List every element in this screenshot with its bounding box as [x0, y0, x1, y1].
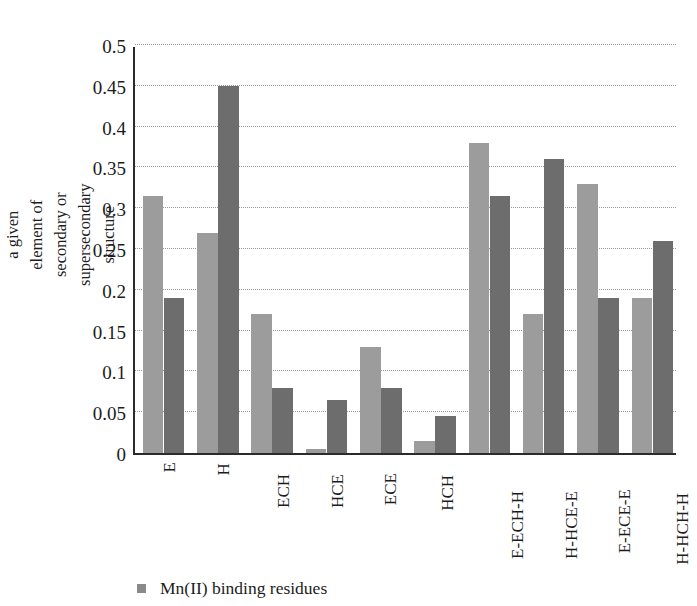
bar	[469, 143, 490, 453]
x-tick-label-text: E-ECH-H	[508, 491, 528, 559]
bar	[360, 347, 381, 453]
bar	[632, 298, 653, 453]
bar	[143, 196, 164, 453]
gridline	[135, 44, 676, 45]
x-tick-label-text: E-ECE-E	[615, 489, 635, 553]
y-axis-title: The usage of amino acids in a given elem…	[0, 0, 72, 470]
x-tick-label: ECH	[257, 457, 281, 477]
x-tick-label: E-ECE-E	[583, 457, 607, 477]
x-tick-label-text: ECE	[381, 473, 401, 505]
bar	[327, 400, 348, 453]
x-tick-label-text: H-HCH-H	[673, 493, 693, 565]
x-tick-label: H	[202, 457, 226, 477]
bar	[164, 298, 185, 453]
y-tick-label: 0.3	[102, 199, 126, 221]
y-tick-label: 0	[117, 444, 127, 466]
y-tick-label: 0.05	[93, 403, 126, 425]
bar	[435, 416, 456, 453]
bar-chart-figure: The usage of amino acids in a given elem…	[0, 0, 697, 606]
y-tick-label: 0.2	[102, 280, 126, 302]
x-tick-label: HCE	[311, 457, 335, 477]
bar	[306, 449, 327, 453]
y-tick-label: 0.15	[93, 321, 126, 343]
bar	[653, 241, 674, 453]
x-tick-label-text: H	[214, 463, 234, 475]
legend-item-label: Mn(II) binding residues	[160, 578, 327, 599]
x-tick-label: ECE	[365, 457, 389, 477]
x-tick-label-text: ECH	[274, 474, 294, 508]
y-tick-label: 0.25	[93, 240, 126, 262]
bar	[272, 388, 293, 453]
plot-area: 00.050.10.150.20.250.30.350.40.450.5	[133, 47, 676, 455]
bar-group	[135, 47, 189, 453]
legend-square-marker-icon	[137, 584, 146, 593]
x-tick-label-text: E	[160, 462, 180, 472]
bar	[544, 159, 565, 453]
bar-group	[352, 47, 406, 453]
bar-group	[189, 47, 243, 453]
y-tick-label: 0.1	[102, 362, 126, 384]
x-tick-label: H-HCE-E	[528, 457, 552, 477]
x-tick-labels: EHECHHCEECEHCHE-ECH-HH-HCE-EE-ECE-EH-HCH…	[133, 457, 676, 567]
x-tick-label-text: H-HCE-E	[562, 491, 582, 559]
y-tick-label: 0.45	[93, 76, 126, 98]
bar	[414, 441, 435, 453]
y-tick-label: 0.35	[93, 158, 126, 180]
bar	[197, 233, 218, 453]
bar-group	[461, 47, 515, 453]
bar	[577, 184, 598, 453]
bar	[490, 196, 511, 453]
bar-group	[298, 47, 352, 453]
x-tick-label: E-ECH-H	[474, 457, 498, 477]
chart-legend: Mn(II) binding residues	[137, 578, 327, 599]
bar-group	[569, 47, 623, 453]
x-tick-label: E	[148, 457, 172, 477]
x-tick-label-text: HCH	[438, 475, 458, 511]
bars-layer	[135, 47, 676, 453]
bar	[218, 86, 239, 453]
bar-group	[407, 47, 461, 453]
bar-group	[624, 47, 678, 453]
x-tick-label: HCH	[420, 457, 444, 477]
y-tick-label: 0.4	[102, 117, 126, 139]
x-tick-label-text: HCE	[328, 474, 348, 508]
bar	[523, 314, 544, 453]
bar	[251, 314, 272, 453]
bar-group	[515, 47, 569, 453]
bar	[598, 298, 619, 453]
x-tick-label: H-HCH-H	[637, 457, 661, 477]
y-tick-label: 0.5	[102, 36, 126, 58]
bar	[381, 388, 402, 453]
bar-group	[244, 47, 298, 453]
